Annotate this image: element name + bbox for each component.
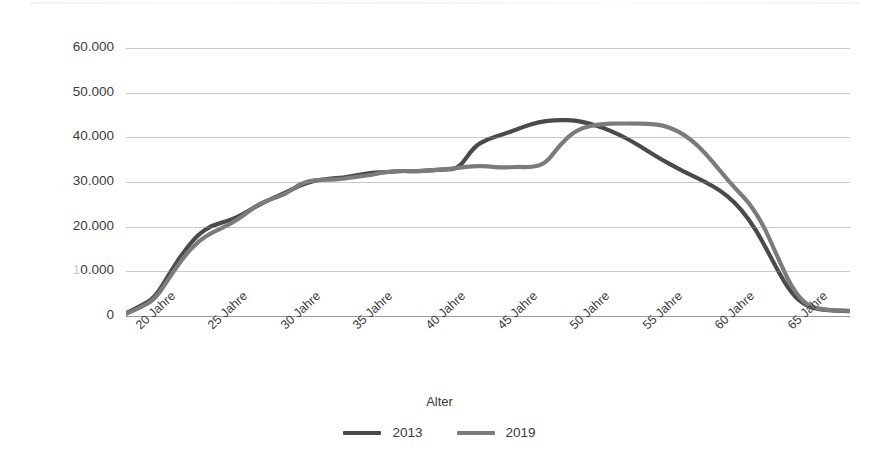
legend-label: 2019: [506, 425, 536, 440]
gridline: [126, 48, 850, 49]
gridline: [126, 182, 850, 183]
x-axis-title: Alter: [0, 394, 879, 409]
legend-swatch-icon: [343, 431, 381, 435]
legend-entry-2019[interactable]: 2019: [457, 425, 536, 440]
legend-label: 2013: [392, 425, 422, 440]
legend-entry-2013[interactable]: 2013: [343, 425, 422, 440]
gridline: [126, 137, 850, 138]
chart-legend: 20132019: [0, 425, 879, 440]
gridline: [126, 227, 850, 228]
gridline: [126, 316, 850, 317]
plot-area: [126, 48, 850, 316]
gridline: [126, 271, 850, 272]
legend-swatch-icon: [457, 431, 495, 435]
series-line-2013: [126, 120, 850, 313]
employment-by-age-line-chart: Beschäftige 010.00020.00030.00040.00050.…: [0, 0, 879, 467]
gridline: [126, 93, 850, 94]
